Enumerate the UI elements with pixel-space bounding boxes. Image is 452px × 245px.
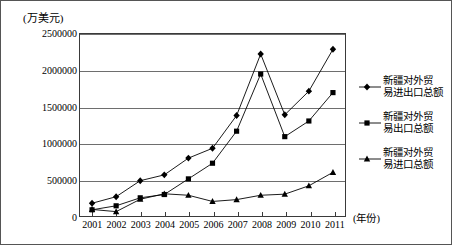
data-point-triangle: [306, 182, 312, 188]
chart-container: (万美元) 0500000100000015000002000000250000…: [0, 0, 452, 245]
legend-item[interactable]: 新疆对外贸易进口总额: [359, 147, 451, 172]
legend-label: 新疆对外贸易进出口总额: [383, 75, 443, 100]
y-axis-tick-label: 2000000: [42, 66, 77, 76]
y-axis-tick-label: 2500000: [42, 29, 77, 39]
y-axis-tick-label: 1500000: [42, 103, 77, 113]
legend-marker-square-icon: [359, 116, 381, 130]
data-point-square: [364, 121, 369, 126]
data-point-diamond: [161, 171, 167, 178]
data-point-diamond: [364, 84, 370, 91]
series-line: [89, 169, 336, 214]
data-point-diamond: [89, 200, 95, 207]
y-axis-tick-label: 0: [72, 213, 77, 223]
y-axis-tick-label: 500000: [47, 176, 77, 186]
data-point-square: [234, 129, 239, 134]
legend-label-line1: 新疆对外贸: [383, 111, 433, 123]
x-axis-tick-label: 2003: [131, 220, 151, 230]
series-polyline: [92, 74, 333, 210]
series-polyline: [92, 172, 333, 211]
x-axis-tick-label: 2009: [276, 220, 296, 230]
data-point-triangle: [330, 169, 336, 175]
data-point-diamond: [258, 51, 264, 58]
legend-marker-diamond-icon: [359, 80, 381, 94]
x-axis-tick-label: 2007: [228, 220, 248, 230]
data-point-diamond: [185, 155, 191, 162]
legend-label-line1: 新疆对外贸: [383, 147, 433, 159]
x-axis-tick-label: 2002: [106, 220, 126, 230]
y-axis-unit-label: (万美元): [23, 9, 63, 25]
legend-item[interactable]: 新疆对外贸易出口总额: [359, 111, 451, 136]
data-point-square: [330, 90, 335, 95]
legend-label-line2: 易出口总额: [383, 123, 433, 135]
legend-label-line1: 新疆对外贸: [383, 75, 443, 87]
x-axis-title: (年份): [353, 210, 380, 225]
x-axis-tick-label: 2006: [204, 220, 224, 230]
x-axis-tick-label: 2005: [179, 220, 199, 230]
chart-legend: 新疆对外贸易进出口总额新疆对外贸易出口总额新疆对外贸易进口总额: [359, 75, 451, 182]
legend-item[interactable]: 新疆对外贸易进出口总额: [359, 75, 451, 100]
x-axis-tick-label: 2011: [325, 220, 345, 230]
data-point-square: [114, 203, 119, 208]
y-axis-tick-label: 1000000: [42, 139, 77, 149]
legend-label: 新疆对外贸易进口总额: [383, 147, 433, 172]
series-line: [89, 46, 336, 207]
data-point-diamond: [113, 193, 119, 200]
x-axis-tick-label: 2001: [82, 220, 102, 230]
series-layer: [80, 34, 345, 216]
data-point-diamond: [137, 177, 143, 184]
series-polyline: [92, 49, 333, 203]
x-axis-tick-label: 2004: [155, 220, 175, 230]
legend-label-line2: 易进口总额: [383, 159, 433, 171]
legend-label-line2: 易进出口总额: [383, 87, 443, 99]
x-axis-tick-label: 2010: [301, 220, 321, 230]
legend-marker-triangle-icon: [359, 152, 381, 166]
series-line: [89, 71, 335, 212]
data-point-square: [258, 71, 263, 76]
data-point-diamond: [330, 46, 336, 53]
data-point-square: [186, 176, 191, 181]
data-point-square: [306, 118, 311, 123]
legend-label: 新疆对外贸易出口总额: [383, 111, 433, 136]
x-axis-tick-label: 2008: [252, 220, 272, 230]
data-point-square: [210, 161, 215, 166]
data-point-square: [282, 134, 287, 139]
plot-area: 05000001000000150000020000002500000 2001…: [79, 33, 346, 217]
